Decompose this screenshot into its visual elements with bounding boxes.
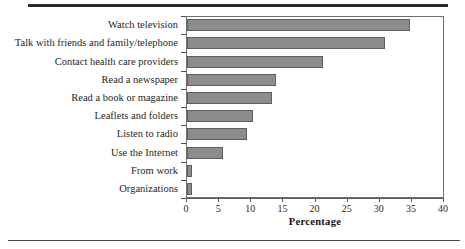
bar xyxy=(187,92,272,104)
x-axis-tick xyxy=(282,198,283,202)
x-axis-tick-label: 30 xyxy=(367,203,391,214)
category-label: Watch television xyxy=(108,19,178,31)
x-axis-tick xyxy=(250,198,251,202)
category-label: Contact health care providers xyxy=(55,56,178,68)
bar xyxy=(187,37,385,49)
x-axis-tick xyxy=(218,198,219,202)
bar xyxy=(187,110,253,122)
y-axis-tick xyxy=(181,89,186,90)
bar xyxy=(187,19,410,31)
x-axis-tick xyxy=(315,198,316,202)
bar-chart-figure: Watch televisionTalk with friends and fa… xyxy=(0,0,465,249)
bar xyxy=(187,74,276,86)
x-axis-tick-label: 0 xyxy=(174,203,198,214)
y-axis-tick xyxy=(181,180,186,181)
category-label-column: Watch televisionTalk with friends and fa… xyxy=(6,16,182,198)
x-axis-tick-label: 15 xyxy=(270,203,294,214)
category-label: Read a book or magazine xyxy=(71,92,178,104)
category-label: Talk with friends and family/telephone xyxy=(15,37,178,49)
bar xyxy=(187,183,192,195)
bar xyxy=(187,147,223,159)
x-axis-tick-label: 20 xyxy=(303,203,327,214)
y-axis-tick xyxy=(181,162,186,163)
x-axis-tick-label: 25 xyxy=(335,203,359,214)
page-rule-bottom xyxy=(8,240,460,241)
x-axis-tick xyxy=(411,198,412,202)
bar-series-layer xyxy=(187,16,444,198)
category-label: Leaflets and folders xyxy=(95,110,178,122)
x-axis-tick-label: 35 xyxy=(399,203,423,214)
x-axis-tick-label: 10 xyxy=(238,203,262,214)
bar xyxy=(187,128,247,140)
y-axis-tick xyxy=(181,71,186,72)
x-axis-tick-label: 5 xyxy=(206,203,230,214)
y-axis-tick xyxy=(181,107,186,108)
x-axis-tick xyxy=(347,198,348,202)
category-label: From work xyxy=(131,165,178,177)
category-label: Listen to radio xyxy=(117,128,178,140)
y-axis-tick xyxy=(181,143,186,144)
y-axis-tick xyxy=(181,34,186,35)
category-label: Read a newspaper xyxy=(102,74,178,86)
x-axis-title: Percentage xyxy=(186,216,444,227)
bar xyxy=(187,165,192,177)
y-axis-tick xyxy=(181,125,186,126)
bar xyxy=(187,56,323,68)
category-label: Organizations xyxy=(119,183,178,195)
x-axis-tick xyxy=(443,198,444,202)
y-axis-tick xyxy=(181,52,186,53)
y-axis-tick xyxy=(181,16,186,17)
x-axis-tick xyxy=(379,198,380,202)
x-axis-tick xyxy=(186,198,187,202)
category-label: Use the Internet xyxy=(111,147,178,159)
x-axis-tick-label: 40 xyxy=(431,203,455,214)
